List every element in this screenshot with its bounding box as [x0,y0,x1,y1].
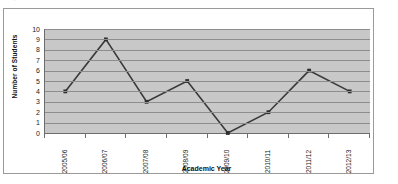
gridline [45,29,370,30]
x-axis-tick-label: 2007/08 [126,137,166,155]
y-axis-tick-label: 6 [22,67,40,74]
gridline [45,71,370,72]
x-axis-tick [369,134,370,138]
chart-container: Number of Students 109876543210 2005/062… [3,8,374,174]
y-axis-tick-label: 1 [22,119,40,126]
x-axis-tick-label: 2012/13 [329,137,369,155]
y-axis-tick-label: 0 [22,130,40,137]
y-axis-tick-label: 4 [22,88,40,95]
x-axis-tick-label: 2008/09 [166,137,206,155]
y-axis-tick-label: 2 [22,109,40,116]
y-axis-tick-label: 9 [22,36,40,43]
y-axis-title: Number of Students [11,31,18,103]
gridline [45,102,370,103]
x-axis-tick-label: 2005/06 [44,137,84,155]
gridline [45,91,370,92]
cut-off-text-artifact: o o , [0,0,398,6]
x-axis-tick-label: 2011/12 [288,137,328,155]
y-axis-tick-label: 7 [22,57,40,64]
x-axis-tick-label: 2009/10 [207,137,247,155]
gridline [45,112,370,113]
y-axis-tick-label: 10 [22,26,40,33]
gridline [45,50,370,51]
y-axis-tick-labels: 109876543210 [22,29,40,133]
artifact-text: o o , [0,0,16,2]
y-axis-tick-label: 5 [22,78,40,85]
gridline [45,60,370,61]
x-axis-tick-label: 2010/11 [247,137,287,155]
plot-area [44,29,370,134]
data-line [65,39,349,133]
y-axis-tick-label: 3 [22,98,40,105]
gridline [45,123,370,124]
x-axis-title: Academic Year [44,165,369,172]
gridline [45,39,370,40]
x-axis-tick-label: 2006/07 [85,137,125,155]
y-axis-tick-label: 8 [22,46,40,53]
gridline [45,81,370,82]
data-markers [63,38,351,135]
